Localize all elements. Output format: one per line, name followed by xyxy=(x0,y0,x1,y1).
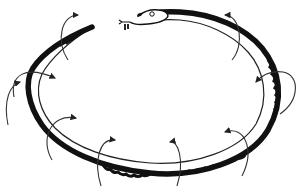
snake-tongue xyxy=(119,20,130,24)
snake-ring-diagram xyxy=(0,0,307,196)
snake-fangs xyxy=(125,24,128,30)
snake-tail xyxy=(60,27,92,46)
rotation-arrow-icon xyxy=(170,142,181,186)
snake-head xyxy=(119,10,168,30)
snake-body-ring xyxy=(28,12,278,177)
rotation-arrow-icon xyxy=(13,72,55,97)
